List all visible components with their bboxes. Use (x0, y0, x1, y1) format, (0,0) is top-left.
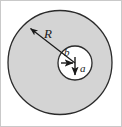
figure-container: R b a (0, 0, 122, 127)
label-offset-horizontal: b (64, 46, 70, 58)
label-outer-radius: R (43, 26, 52, 41)
label-offset-vertical: a (80, 62, 86, 74)
annulus-diagram: R b a (0, 0, 122, 127)
